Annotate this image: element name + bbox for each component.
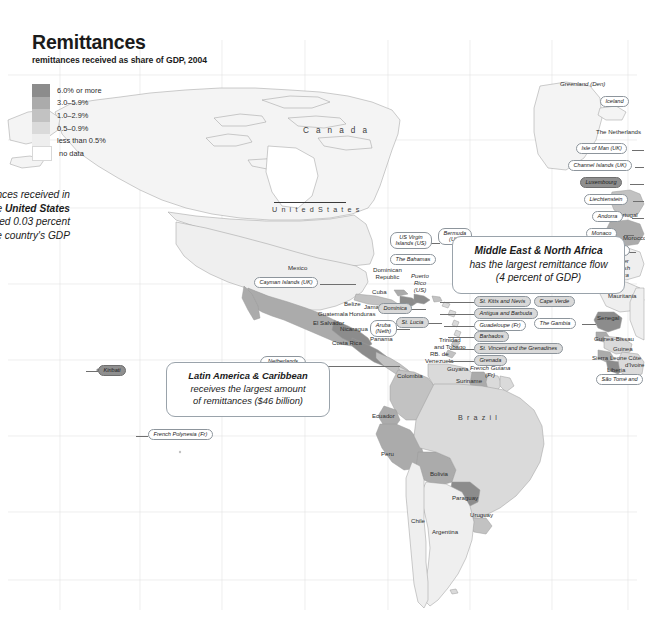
callout-united-states-leader bbox=[274, 202, 346, 203]
pill-us-virgin-islands: US VirginIslands (US) bbox=[390, 232, 432, 249]
label-puerto-rico: PuertoRico(US) bbox=[411, 272, 429, 294]
label-ecuador-line: Ecuador bbox=[372, 412, 395, 419]
label-guyana: Guyana bbox=[447, 365, 468, 372]
label-argentina: Argentina bbox=[432, 528, 458, 535]
label-uruguay-line: Uruguay bbox=[470, 511, 493, 518]
legend-swatch bbox=[32, 97, 50, 110]
pill-the-bahamas-line: The Bahamas bbox=[396, 256, 431, 263]
label-costa-rica-line: Costa Rica bbox=[332, 339, 362, 346]
pill-channel-islands-leader bbox=[635, 167, 644, 168]
pill-barbados-leader bbox=[448, 337, 474, 338]
label-puerto-rico-line: Puerto bbox=[411, 272, 429, 279]
pill-grenada: Grenada bbox=[474, 355, 507, 366]
label-french-guiana-line: (Fr) bbox=[470, 371, 510, 378]
label-honduras-line: Honduras bbox=[349, 310, 375, 317]
pill-guadeloupe-line: Guadeloupe (Fr) bbox=[480, 322, 521, 329]
pill-dominica: Dominica bbox=[378, 303, 412, 314]
label-french-guiana: French Guiana(Fr) bbox=[470, 364, 510, 378]
label-paraguay: Paraguay bbox=[452, 494, 478, 501]
pill-antigua-barbuda: Antigua and Barbuda bbox=[474, 308, 538, 319]
pill-andorra-leader bbox=[632, 218, 644, 219]
legend-swatch bbox=[32, 122, 50, 135]
label-colombia: Colombia bbox=[397, 372, 423, 379]
label-cuba: Cuba bbox=[372, 288, 387, 295]
pill-isle-of-man-line: Isle of Man (UK) bbox=[582, 145, 622, 152]
pill-channel-islands: Channel Islands (UK) bbox=[568, 160, 632, 171]
pill-sao-tome: São Tomé and bbox=[596, 374, 643, 385]
label-guatemala-line: Guatemala bbox=[318, 310, 348, 317]
pill-french-polynesia-line: French Polynesia (Fr) bbox=[154, 431, 208, 438]
pill-sao-tome-line: São Tomé and bbox=[602, 376, 638, 383]
pill-st-lucia-line: St. Lucia bbox=[402, 319, 424, 326]
pill-antigua-barbuda-leader bbox=[440, 314, 474, 315]
callout-us-line: Remittances received in bbox=[0, 188, 70, 202]
label-belize: Belize bbox=[344, 300, 361, 307]
pill-st-kitts-nevis: St. Kitts and Nevis bbox=[474, 296, 531, 307]
callout-us-line: 2005 in the United States bbox=[0, 202, 70, 216]
pill-liechtenstein-line: Liechtenstein bbox=[590, 196, 623, 203]
callout-lac-line: of remittances ($46 billion) bbox=[176, 395, 320, 408]
pill-channel-islands-line: Channel Islands (UK) bbox=[574, 162, 627, 169]
label-guinea-bissau-line: Guinea-Bissau bbox=[594, 335, 634, 342]
pill-the-gambia-line: The Gambia bbox=[540, 320, 571, 327]
label-united-states: U n i t e d S t a t e s bbox=[272, 206, 360, 214]
pill-st-lucia: St. Lucia bbox=[396, 317, 429, 328]
pill-luxembourg-line: Luxembourg bbox=[586, 179, 617, 186]
label-chile-line: Chile bbox=[411, 517, 425, 524]
pill-antigua-barbuda-line: Antigua and Barbuda bbox=[480, 310, 533, 317]
callout-emphasis: Latin America & Caribbean bbox=[188, 370, 307, 381]
label-united-states-line: U n i t e d S t a t e s bbox=[272, 206, 360, 214]
label-cuba-line: Cuba bbox=[372, 288, 387, 295]
label-mexico: Mexico bbox=[288, 264, 307, 271]
pill-aruba: Aruba(Neth) bbox=[370, 320, 397, 337]
pill-andorra: Andorra bbox=[592, 211, 623, 222]
legend-label: 0.5–0.9% bbox=[57, 124, 88, 133]
label-guinea-line: Guinea bbox=[613, 345, 633, 352]
label-dominican-republic-line: Dominican bbox=[373, 266, 402, 273]
label-costa-rica: Costa Rica bbox=[332, 339, 362, 346]
label-nicaragua-line: Nicaragua bbox=[340, 325, 368, 332]
pill-luxembourg-leader bbox=[630, 184, 644, 185]
label-argentina-line: Argentina bbox=[432, 528, 458, 535]
label-peru-line: Peru bbox=[381, 450, 394, 457]
label-guatemala: Guatemala bbox=[318, 310, 348, 317]
pill-dominica-line: Dominica bbox=[384, 305, 407, 312]
callout-mena-line: has the largest remittance flow bbox=[461, 258, 616, 272]
callout-us-line: of the country's GDP bbox=[0, 229, 70, 243]
label-canada: C a n a d a bbox=[303, 126, 369, 136]
pill-kiribati-leader bbox=[86, 371, 98, 372]
pill-iceland: Iceland bbox=[600, 96, 629, 107]
label-nicaragua: Nicaragua bbox=[340, 325, 368, 332]
callout-lac-line: receives the largest amount bbox=[176, 383, 320, 396]
legend-label: 1.0–2.9% bbox=[57, 111, 88, 120]
pill-guadeloupe-leader bbox=[444, 326, 474, 327]
remittances-legend: 6.0% or more3.0–5.9%1.0–2.9%0.5–0.9%less… bbox=[32, 84, 106, 160]
pill-st-vincent-grenadines-leader bbox=[450, 349, 474, 350]
callout-latin-america-caribbean: Latin America & Caribbeanreceives the la… bbox=[166, 362, 330, 417]
pill-liechtenstein: Liechtenstein bbox=[584, 194, 628, 205]
label-uruguay: Uruguay bbox=[470, 511, 493, 518]
pill-aruba-line: (Neth) bbox=[376, 328, 392, 334]
legend-swatch bbox=[32, 109, 50, 122]
pill-grenada-line: Grenada bbox=[480, 357, 502, 364]
legend-row: no data bbox=[32, 147, 106, 160]
pill-isle-of-man: Isle of Man (UK) bbox=[576, 143, 627, 154]
label-guinea-bissau: Guinea-Bissau bbox=[594, 335, 634, 342]
label-guinea: Guinea bbox=[613, 345, 633, 352]
pill-aruba-leader bbox=[396, 329, 410, 330]
label-brazil-line: B r a z i l bbox=[458, 414, 498, 422]
legend-row: 6.0% or more bbox=[32, 84, 106, 97]
label-honduras: Honduras bbox=[349, 310, 375, 317]
pill-us-virgin-islands-line: Islands (US) bbox=[396, 240, 427, 246]
label-puerto-rico-line: (US) bbox=[411, 286, 429, 293]
legend-label: 3.0–5.9% bbox=[57, 98, 88, 107]
label-cote-divoire-line: d'Ivoire bbox=[625, 361, 644, 368]
pill-the-gambia-leader bbox=[582, 324, 596, 325]
pill-guadeloupe: Guadeloupe (Fr) bbox=[474, 320, 526, 331]
pill-st-kitts-nevis-leader bbox=[440, 302, 474, 303]
remittances-map-page: .gl{fill:none;stroke:#e2e2e2;stroke-widt… bbox=[0, 0, 645, 637]
page-subtitle: remittances received as share of GDP, 20… bbox=[32, 55, 207, 65]
pill-st-vincent-grenadines-line: St. Vincent and the Grenadines bbox=[480, 345, 558, 352]
label-venezuela-line: RB. de bbox=[425, 350, 453, 357]
pill-grenada-leader bbox=[448, 361, 474, 362]
